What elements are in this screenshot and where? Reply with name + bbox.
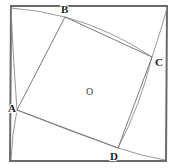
center-label-o: O [86, 86, 93, 97]
vertex-label-d: D [110, 150, 118, 162]
geometry-figure-canvas: A B C D O [0, 0, 174, 168]
vertex-label-b: B [61, 3, 69, 15]
vertex-label-c: C [155, 56, 163, 68]
geometry-figure-svg: A B C D O [0, 0, 174, 168]
vertex-label-a: A [8, 102, 16, 114]
